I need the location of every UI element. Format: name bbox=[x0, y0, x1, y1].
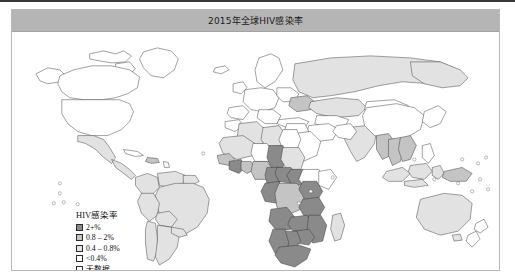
region-scandinavia bbox=[255, 54, 283, 88]
region-canada-arctic-islands bbox=[90, 51, 132, 63]
legend-swatch-08-2 bbox=[76, 234, 83, 241]
region-borneo bbox=[408, 163, 432, 179]
island-marker bbox=[433, 178, 436, 181]
figure-panel: 2015年全球HIV感染率 bbox=[11, 9, 500, 271]
region-russia-east bbox=[410, 62, 468, 88]
island-marker bbox=[461, 158, 464, 161]
region-madagascar bbox=[331, 213, 345, 241]
island-marker bbox=[484, 156, 487, 159]
legend-swatch-under-04 bbox=[76, 255, 83, 262]
island-marker bbox=[309, 190, 312, 193]
island-marker bbox=[413, 158, 416, 161]
legend-label-08-2: 0.8 – 2% bbox=[86, 233, 114, 242]
figure-title-bar: 2015年全球HIV感染率 bbox=[12, 10, 499, 32]
region-colombia bbox=[135, 173, 159, 195]
region-new-zealand-south bbox=[466, 231, 480, 247]
region-united-states bbox=[62, 100, 134, 136]
region-vietnam-laos-cambodia bbox=[398, 136, 416, 162]
region-lesser-antilles bbox=[163, 161, 169, 167]
page-title: 2015年全球HIV感染率 bbox=[208, 14, 303, 27]
region-mexico bbox=[78, 136, 116, 164]
legend-swatch-2plus bbox=[76, 224, 83, 231]
world-map-area: HIV感染率 2+% 0.8 – 2% 0.4 – 0.8% <0.4% 无数据 bbox=[12, 32, 499, 270]
region-hispaniola-haiti bbox=[145, 157, 159, 163]
island-marker bbox=[471, 190, 474, 193]
island-marker bbox=[52, 202, 55, 205]
island-marker bbox=[476, 162, 479, 165]
region-tanzania bbox=[299, 197, 325, 217]
region-indonesia-java bbox=[404, 179, 428, 187]
region-somalia bbox=[319, 169, 337, 189]
region-australia bbox=[416, 193, 472, 235]
island-marker bbox=[58, 182, 61, 185]
island-marker bbox=[58, 192, 61, 195]
island-marker bbox=[76, 203, 79, 206]
region-korea-japan bbox=[422, 106, 446, 128]
legend-item-08-2[interactable]: 0.8 – 2% bbox=[76, 233, 154, 243]
legend-label-2plus: 2+% bbox=[86, 223, 101, 232]
legend-item-04-08[interactable]: 0.4 – 0.8% bbox=[76, 243, 154, 253]
region-kazakhstan bbox=[309, 98, 367, 118]
island-marker bbox=[202, 152, 205, 155]
region-iceland bbox=[213, 66, 229, 74]
top-divider-rule bbox=[0, 0, 515, 2]
region-new-guinea bbox=[442, 167, 472, 181]
island-marker bbox=[297, 202, 300, 205]
legend-item-no-data[interactable]: 无数据 bbox=[76, 264, 154, 270]
legend-label-no-data: 无数据 bbox=[86, 265, 110, 271]
legend-swatch-04-08 bbox=[76, 245, 83, 252]
island-marker bbox=[62, 201, 65, 204]
legend-label-under-04: <0.4% bbox=[86, 254, 107, 263]
region-cuba bbox=[124, 150, 144, 157]
region-tasmania bbox=[452, 234, 462, 241]
map-legend: HIV感染率 2+% 0.8 – 2% 0.4 – 0.8% <0.4% 无数据 bbox=[76, 208, 154, 270]
island-marker bbox=[478, 178, 481, 181]
region-italy-balkans bbox=[257, 110, 281, 124]
island-marker bbox=[486, 188, 489, 191]
legend-item-under-04[interactable]: <0.4% bbox=[76, 254, 154, 264]
island-marker bbox=[457, 182, 460, 185]
region-iberia bbox=[227, 106, 249, 120]
legend-label-04-08: 0.4 – 0.8% bbox=[86, 244, 120, 253]
island-marker bbox=[331, 176, 334, 179]
legend-title: HIV感染率 bbox=[76, 208, 154, 220]
region-philippines bbox=[422, 144, 434, 164]
region-western-europe bbox=[243, 88, 279, 112]
region-central-america bbox=[112, 159, 136, 179]
legend-item-2plus[interactable]: 2+% bbox=[76, 222, 154, 232]
region-south-africa bbox=[275, 245, 311, 267]
legend-swatch-no-data bbox=[76, 266, 83, 271]
region-greenland bbox=[139, 48, 178, 78]
region-canada bbox=[58, 66, 140, 100]
region-indonesia-sumatra bbox=[382, 167, 410, 181]
